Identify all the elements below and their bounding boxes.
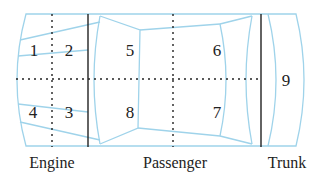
- zone-8-label: 8: [126, 103, 135, 122]
- zone-6-label: 6: [213, 41, 222, 60]
- zone-5-label: 5: [126, 41, 135, 60]
- zone-1-label: 1: [30, 41, 39, 60]
- zone-7-label: 7: [213, 103, 222, 122]
- zone-2-label: 2: [65, 41, 74, 60]
- zone-4-label: 4: [29, 103, 38, 122]
- trunk-section-label: Trunk: [268, 154, 307, 171]
- zone-9-label: 9: [282, 71, 291, 90]
- section-dividers: [88, 14, 261, 147]
- passenger-section-label: Passenger: [143, 154, 208, 172]
- car-zone-diagram: 1 2 5 6 4 3 8 7 9 Engine Passenger Trunk: [0, 0, 328, 182]
- engine-section-label: Engine: [29, 154, 74, 172]
- zone-3-label: 3: [65, 103, 74, 122]
